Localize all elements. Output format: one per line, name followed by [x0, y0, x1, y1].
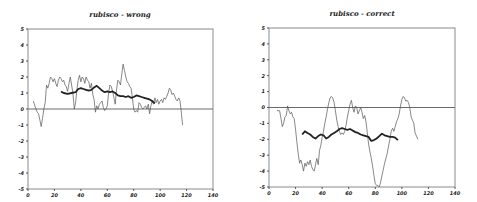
y-tick-label: -4 [18, 170, 24, 176]
y-axis-ticks: -5-4-3-2-1012345 [259, 25, 269, 190]
data-series [277, 96, 418, 187]
chart-title: rubisco - wrong [89, 10, 150, 19]
chart-panel-rubisco-wrong: rubisco - wrong -5-4-3-2-1012345 0204060… [18, 10, 218, 198]
y-tick-label: 4 [262, 41, 266, 47]
x-tick-label: 0 [267, 190, 271, 196]
y-tick-label: -3 [18, 154, 24, 160]
chart-title: rubisco - correct [329, 9, 395, 18]
y-tick-label: 0 [21, 106, 25, 112]
y-tick-label: 5 [262, 25, 266, 31]
raw-series-line [33, 64, 182, 126]
x-tick-label: 100 [155, 192, 166, 198]
x-tick-label: 80 [372, 190, 379, 196]
x-tick-label: 120 [181, 192, 192, 198]
x-tick-label: 60 [104, 192, 111, 198]
chart-canvas: rubisco - wrong -5-4-3-2-1012345 0204060… [0, 0, 477, 202]
x-tick-label: 140 [208, 192, 219, 198]
x-tick-label: 0 [26, 192, 30, 198]
x-tick-label: 100 [397, 190, 408, 196]
x-axis-ticks: 020406080100120140 [267, 187, 460, 196]
y-tick-label: 3 [21, 58, 25, 64]
y-tick-label: -2 [18, 138, 24, 144]
y-tick-label: -5 [259, 184, 265, 190]
raw-series-line [277, 96, 418, 187]
x-tick-label: 80 [130, 192, 137, 198]
y-tick-label: 5 [21, 26, 25, 32]
y-tick-label: -4 [259, 168, 265, 174]
y-tick-label: -3 [259, 152, 265, 158]
y-tick-label: 4 [21, 42, 25, 48]
y-tick-label: 2 [21, 74, 25, 80]
smoothed-series-line [302, 128, 398, 141]
y-tick-label: 2 [262, 73, 266, 79]
y-tick-label: 0 [262, 104, 266, 110]
x-tick-label: 60 [345, 190, 352, 196]
data-series [33, 64, 182, 126]
x-tick-label: 20 [292, 190, 299, 196]
y-tick-label: -1 [259, 120, 265, 126]
y-tick-label: -1 [18, 122, 24, 128]
chart-panel-rubisco-correct: rubisco - correct -5-4-3-2-1012345 02040… [259, 9, 460, 196]
x-tick-label: 40 [77, 192, 84, 198]
y-tick-label: 1 [262, 88, 265, 94]
y-tick-label: -2 [259, 136, 265, 142]
x-tick-label: 120 [423, 190, 434, 196]
x-axis-ticks: 020406080100120140 [26, 189, 218, 198]
x-tick-label: 20 [51, 192, 58, 198]
x-tick-label: 140 [450, 190, 461, 196]
y-axis-ticks: -5-4-3-2-1012345 [18, 26, 28, 192]
x-tick-label: 40 [319, 190, 326, 196]
y-tick-label: -5 [18, 186, 24, 192]
y-tick-label: 3 [262, 57, 266, 63]
y-tick-label: 1 [21, 90, 24, 96]
